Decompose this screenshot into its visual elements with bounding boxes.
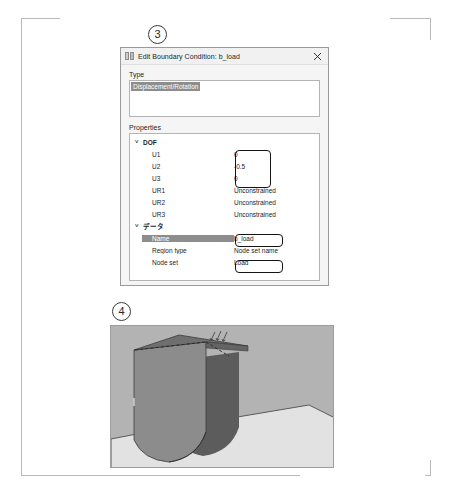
property-key: U2 xyxy=(142,163,234,170)
type-section-label: Type xyxy=(129,71,320,78)
step-marker-4: 4 xyxy=(112,302,131,321)
property-value[interactable]: Unconstrained xyxy=(234,187,315,194)
dialog-body: Type Displacement/Rotation Properties ˅ … xyxy=(121,65,328,281)
property-value[interactable]: Load xyxy=(234,259,315,266)
step-marker-3: 3 xyxy=(148,25,167,44)
property-key: Node set xyxy=(142,259,234,266)
property-key: Region type xyxy=(142,247,234,254)
page-border-gap-right xyxy=(424,40,432,460)
property-value[interactable]: Node set name xyxy=(234,247,315,254)
close-icon[interactable] xyxy=(311,50,324,63)
property-row-ur1[interactable]: UR1 Unconstrained xyxy=(130,184,319,196)
property-row-u3[interactable]: U3 0 xyxy=(130,172,319,184)
property-row-node-set[interactable]: Node set Load xyxy=(130,256,319,268)
dialog-titlebar[interactable]: Edit Boundary Condition: b_load xyxy=(121,48,328,65)
page-border-gap-bottom xyxy=(300,472,425,478)
model-3d-canvas xyxy=(111,326,334,468)
page-border-gap-top xyxy=(60,16,390,21)
property-value[interactable]: -0.5 xyxy=(234,163,315,170)
chevron-down-icon[interactable]: ˅ xyxy=(135,136,142,148)
type-listbox[interactable]: Displacement/Rotation xyxy=(129,80,320,117)
property-key: U3 xyxy=(142,175,234,182)
dialog-title: Edit Boundary Condition: b_load xyxy=(138,53,311,60)
edit-boundary-condition-dialog: Edit Boundary Condition: b_load Type Dis… xyxy=(120,47,329,286)
property-row-region-type[interactable]: Region type Node set name xyxy=(130,244,319,256)
part-front-face xyxy=(134,342,206,462)
property-key: Name xyxy=(142,235,234,242)
property-group-label: データ xyxy=(142,221,218,231)
property-row-u1[interactable]: U1 0 xyxy=(130,148,319,160)
property-row-ur2[interactable]: UR2 Unconstrained xyxy=(130,196,319,208)
property-value[interactable]: Unconstrained xyxy=(234,199,315,206)
properties-panel: ˅ DOF U1 0 U2 -0.5 U3 0 UR1 xyxy=(129,133,320,281)
boundary-condition-icon xyxy=(125,52,134,61)
property-value[interactable]: Unconstrained xyxy=(234,211,315,218)
type-option-displacement-rotation[interactable]: Displacement/Rotation xyxy=(131,82,200,91)
properties-section-label: Properties xyxy=(129,124,320,131)
property-value[interactable]: b_load xyxy=(234,235,315,242)
property-group-data[interactable]: ˅ データ xyxy=(130,220,319,232)
property-key: U1 xyxy=(142,151,234,158)
property-key: UR3 xyxy=(142,211,234,218)
property-key: UR2 xyxy=(142,199,234,206)
property-key: UR1 xyxy=(142,187,234,194)
property-group-dof[interactable]: ˅ DOF xyxy=(130,136,319,148)
property-value[interactable]: 0 xyxy=(234,151,315,158)
property-value[interactable]: 0 xyxy=(234,175,315,182)
property-row-ur3[interactable]: UR3 Unconstrained xyxy=(130,208,319,220)
property-group-label: DOF xyxy=(142,139,218,146)
chevron-down-icon[interactable]: ˅ xyxy=(135,220,142,232)
model-3d-view[interactable] xyxy=(110,325,334,468)
property-row-name[interactable]: Name b_load xyxy=(130,232,319,244)
property-row-u2[interactable]: U2 -0.5 xyxy=(130,160,319,172)
